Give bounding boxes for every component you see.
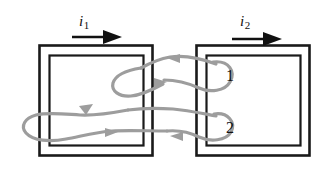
current-subscript-i2: 2 [245, 19, 251, 31]
current-arrow-i2-head [263, 32, 282, 46]
terminal-label-2: 2 [226, 120, 234, 136]
current-arrow-i1 [72, 30, 122, 44]
current-arrow-i2 [232, 32, 282, 46]
current-arrow-i1-head [103, 30, 122, 44]
lower-winding-group [23, 104, 232, 141]
upper-winding-right-loop [164, 62, 232, 91]
terminal-label-1: 1 [226, 68, 234, 84]
current-subscript-i1: 1 [84, 19, 90, 31]
lower-winding-left-span [23, 110, 167, 141]
current-label-i2: i2 [240, 14, 250, 31]
right-core-inner-rect [207, 56, 301, 146]
lower-winding-arrow-left [170, 132, 183, 141]
current-label-i1: i1 [79, 14, 89, 31]
current-symbol-i2: i [240, 13, 244, 29]
lower-winding-upper-span [128, 108, 216, 116]
upper-winding-group [113, 54, 232, 96]
figure-canvas [0, 0, 330, 176]
current-symbol-i1: i [79, 13, 83, 29]
coupled-coils-figure: i1 i2 1 2 [0, 0, 330, 176]
lower-winding-arrow-upright [79, 104, 93, 115]
